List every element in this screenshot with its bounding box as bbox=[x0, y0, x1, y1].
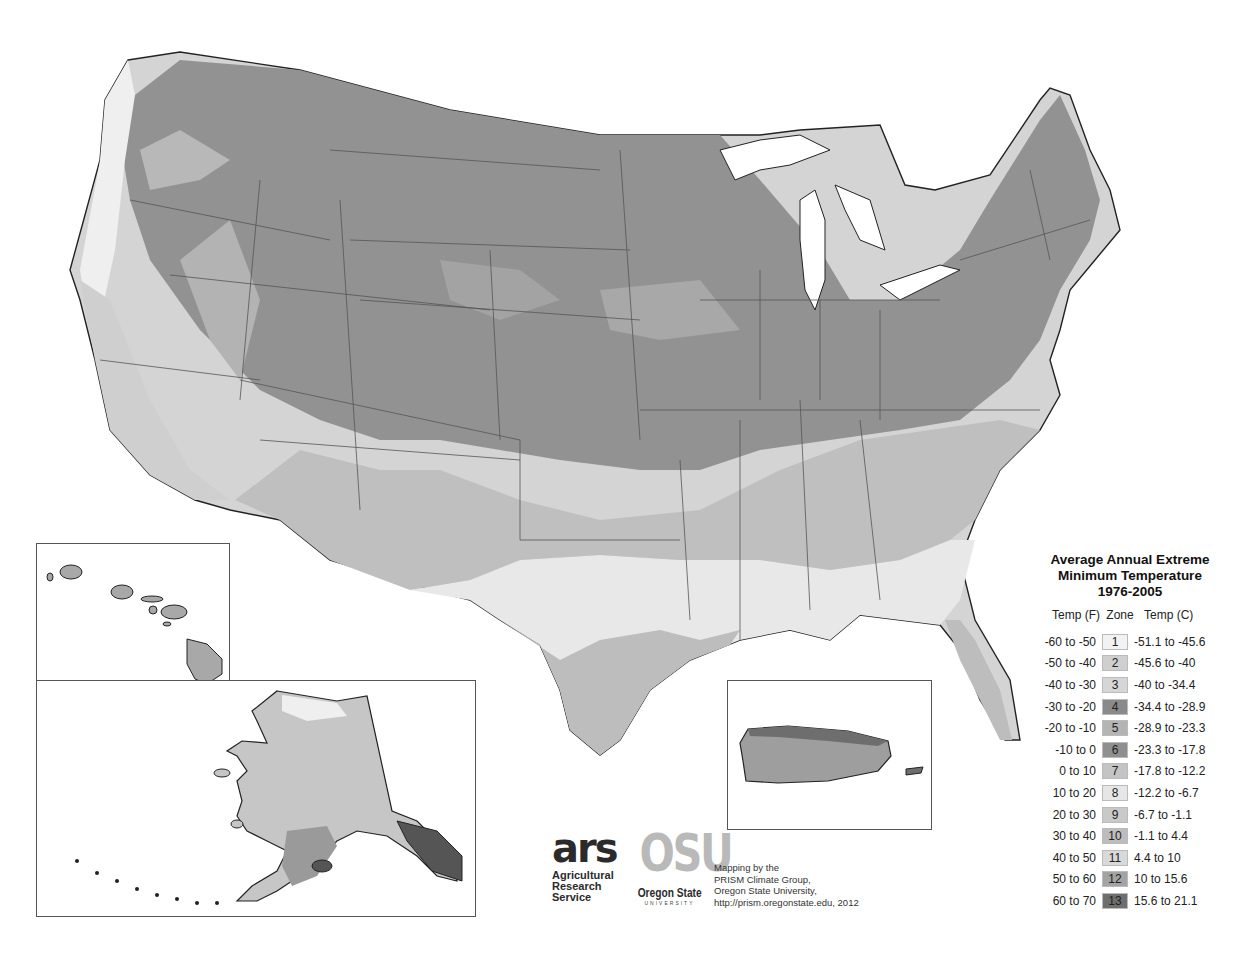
hawaii-inset bbox=[36, 543, 230, 696]
zone-swatch: 1 bbox=[1102, 634, 1128, 650]
legend-title-line2: Minimum Temperature bbox=[1030, 568, 1230, 584]
legend-row-zone-4: -30 to -204-34.4 to -28.9 bbox=[1030, 696, 1230, 718]
zone-swatch: 2 bbox=[1102, 655, 1128, 671]
credit-url: http://prism.oregonstate.edu, 2012 bbox=[714, 897, 859, 909]
kodiak-island bbox=[312, 860, 332, 872]
zone-swatch: 6 bbox=[1102, 742, 1128, 758]
st-lawrence-island bbox=[214, 769, 230, 777]
legend-temp-f: -60 to -50 bbox=[1030, 635, 1102, 649]
alaska-south-dark bbox=[282, 826, 337, 886]
credit-text: Mapping by the PRISM Climate Group, Oreg… bbox=[714, 862, 859, 908]
legend-header-temp-f: Temp (F) bbox=[1030, 608, 1100, 622]
zone-swatch: 9 bbox=[1102, 807, 1128, 823]
legend-rows: -60 to -501-51.1 to -45.6 -50 to -402-45… bbox=[1030, 631, 1230, 912]
legend-temp-f: 20 to 30 bbox=[1030, 808, 1102, 822]
island-kahoolawe bbox=[163, 622, 171, 626]
ars-logo-text: Agricultural Research Service bbox=[552, 870, 622, 903]
legend-header-zone: Zone bbox=[1100, 608, 1140, 622]
legend-row-zone-1: -60 to -501-51.1 to -45.6 bbox=[1030, 631, 1230, 653]
credit-line: PRISM Climate Group, bbox=[714, 874, 859, 886]
legend-temp-f: 50 to 60 bbox=[1030, 872, 1102, 886]
legend-row-zone-7: 0 to 107-17.8 to -12.2 bbox=[1030, 761, 1230, 783]
legend-temp-c: 4.4 to 10 bbox=[1128, 851, 1181, 865]
osu-logo-mark: OSU bbox=[640, 828, 700, 878]
legend-temp-c: -51.1 to -45.6 bbox=[1128, 635, 1205, 649]
legend-title-line1: Average Annual Extreme bbox=[1030, 552, 1230, 568]
legend-temp-f: -30 to -20 bbox=[1030, 700, 1102, 714]
legend-temp-c: -45.6 to -40 bbox=[1128, 656, 1195, 670]
island-maui bbox=[161, 605, 187, 619]
zone-swatch: 8 bbox=[1102, 785, 1128, 801]
vieques-island bbox=[906, 767, 923, 775]
legend-temp-c: -17.8 to -12.2 bbox=[1128, 764, 1205, 778]
zone-swatch: 12 bbox=[1102, 871, 1128, 887]
legend-temp-f: -50 to -40 bbox=[1030, 656, 1102, 670]
legend-row-zone-12: 50 to 601210 to 15.6 bbox=[1030, 869, 1230, 891]
legend-row-zone-6: -10 to 06-23.3 to -17.8 bbox=[1030, 739, 1230, 761]
legend-temp-f: 10 to 20 bbox=[1030, 786, 1102, 800]
island-hawaii bbox=[187, 639, 222, 684]
alaska-panhandle bbox=[397, 821, 462, 881]
zone-swatch: 11 bbox=[1102, 850, 1128, 866]
legend: Average Annual Extreme Minimum Temperatu… bbox=[1030, 552, 1230, 912]
legend-temp-c: -23.3 to -17.8 bbox=[1128, 743, 1205, 757]
aleutian-islands bbox=[75, 859, 219, 905]
legend-temp-f: -10 to 0 bbox=[1030, 743, 1102, 757]
zone-swatch: 13 bbox=[1102, 893, 1128, 909]
ars-line: Service bbox=[552, 892, 622, 903]
credit-line: Oregon State University, bbox=[714, 885, 859, 897]
osu-logo: OSU Oregon State UNIVERSITY bbox=[632, 828, 707, 906]
nunivak-island bbox=[231, 820, 243, 828]
osu-logo-name: Oregon State bbox=[638, 886, 702, 900]
legend-temp-f: 60 to 70 bbox=[1030, 894, 1102, 908]
island-lanai bbox=[149, 606, 157, 614]
legend-header-temp-c: Temp (C) bbox=[1140, 608, 1193, 622]
legend-title-line3: 1976-2005 bbox=[1030, 584, 1230, 600]
legend-temp-c: -40 to -34.4 bbox=[1128, 678, 1195, 692]
ars-logo: ars Agricultural Research Service bbox=[552, 828, 622, 903]
legend-row-zone-3: -40 to -303-40 to -34.4 bbox=[1030, 674, 1230, 696]
legend-header: Temp (F) Zone Temp (C) bbox=[1030, 608, 1230, 622]
osu-logo-sub: UNIVERSITY bbox=[632, 900, 707, 906]
legend-temp-f: -20 to -10 bbox=[1030, 721, 1102, 735]
legend-temp-c: 10 to 15.6 bbox=[1128, 872, 1187, 886]
ars-logo-mark: ars bbox=[552, 828, 622, 868]
legend-row-zone-13: 60 to 701315.6 to 21.1 bbox=[1030, 890, 1230, 912]
zone-swatch: 7 bbox=[1102, 763, 1128, 779]
zone-swatch: 5 bbox=[1102, 720, 1128, 736]
zone-swatch: 4 bbox=[1102, 699, 1128, 715]
legend-temp-c: 15.6 to 21.1 bbox=[1128, 894, 1197, 908]
island-niihau bbox=[47, 573, 53, 581]
legend-row-zone-10: 30 to 4010-1.1 to 4.4 bbox=[1030, 825, 1230, 847]
legend-temp-c: -1.1 to 4.4 bbox=[1128, 829, 1188, 843]
island-oahu bbox=[111, 585, 133, 599]
legend-temp-f: -40 to -30 bbox=[1030, 678, 1102, 692]
legend-temp-c: -34.4 to -28.9 bbox=[1128, 700, 1205, 714]
legend-temp-c: -6.7 to -1.1 bbox=[1128, 808, 1192, 822]
legend-temp-c: -28.9 to -23.3 bbox=[1128, 721, 1205, 735]
hardiness-zone-map: Average Annual Extreme Minimum Temperatu… bbox=[0, 0, 1253, 953]
alaska-mainland bbox=[227, 691, 457, 901]
legend-row-zone-5: -20 to -105-28.9 to -23.3 bbox=[1030, 717, 1230, 739]
legend-title: Average Annual Extreme Minimum Temperatu… bbox=[1030, 552, 1230, 600]
legend-temp-f: 0 to 10 bbox=[1030, 764, 1102, 778]
zone-swatch: 3 bbox=[1102, 677, 1128, 693]
legend-row-zone-8: 10 to 208-12.2 to -6.7 bbox=[1030, 782, 1230, 804]
credit-line: Mapping by the bbox=[714, 862, 859, 874]
puerto-rico-inset bbox=[727, 680, 932, 830]
zone-swatch: 10 bbox=[1102, 828, 1128, 844]
alaska-inset bbox=[36, 680, 476, 917]
legend-row-zone-2: -50 to -402-45.6 to -40 bbox=[1030, 653, 1230, 675]
legend-temp-c: -12.2 to -6.7 bbox=[1128, 786, 1199, 800]
legend-temp-f: 40 to 50 bbox=[1030, 851, 1102, 865]
legend-row-zone-11: 40 to 50114.4 to 10 bbox=[1030, 847, 1230, 869]
legend-temp-f: 30 to 40 bbox=[1030, 829, 1102, 843]
island-molokai bbox=[141, 596, 163, 602]
legend-row-zone-9: 20 to 309-6.7 to -1.1 bbox=[1030, 804, 1230, 826]
island-kauai bbox=[60, 565, 82, 579]
